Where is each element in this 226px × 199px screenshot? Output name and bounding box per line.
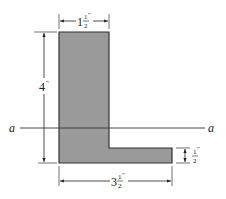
- svg-text:2: 2: [84, 22, 88, 30]
- svg-text:2: 2: [118, 182, 122, 190]
- l-shape: [59, 32, 172, 163]
- svg-text:″: ″: [88, 11, 91, 19]
- top-width-dimension: 1 1 2 ″: [59, 11, 109, 30]
- svg-text:″: ″: [122, 171, 125, 179]
- svg-text:3: 3: [111, 175, 117, 189]
- flange-thickness-dimension: 1 2 ″: [176, 145, 200, 165]
- svg-text:″: ″: [197, 145, 200, 153]
- height-dimension: 4 ″: [34, 32, 57, 163]
- l-section-diagram: a a 1 1 2 ″ 4 ″ 3 1 2 ″ 1: [0, 0, 226, 199]
- svg-text:1: 1: [77, 15, 83, 29]
- bottom-width-dimension: 3 1 2 ″: [59, 166, 172, 190]
- axis-label-right: a: [208, 121, 214, 135]
- svg-text:″: ″: [46, 79, 49, 87]
- svg-text:2: 2: [193, 157, 197, 165]
- svg-text:4: 4: [39, 80, 45, 94]
- axis-label-left: a: [9, 121, 15, 135]
